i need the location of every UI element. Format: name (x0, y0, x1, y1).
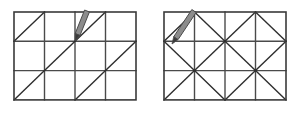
diagonal-line (106, 41, 137, 70)
left-figure (0, 0, 150, 116)
diagonal-line (256, 41, 287, 70)
pencil-icon (172, 10, 196, 44)
diagonal-line (75, 71, 106, 100)
pencil-body (75, 10, 89, 35)
pencil-icon (75, 10, 89, 41)
diagonal-line (195, 71, 226, 100)
right-figure (150, 0, 300, 116)
diagonal-line (225, 12, 256, 41)
diagonal-line (14, 71, 45, 100)
diagonal-line (14, 12, 45, 41)
diagonal-line (225, 41, 256, 70)
left-figure-svg (0, 0, 150, 116)
diagonal-line (225, 71, 256, 100)
diagram-canvas (0, 0, 300, 116)
diagonal-line (45, 41, 76, 70)
diagonal-line (256, 12, 287, 41)
diagonal-line (195, 12, 226, 41)
diagonal-line (164, 71, 195, 100)
diagonal-line (195, 41, 226, 70)
diagonal-line (164, 41, 195, 70)
diagonal-line (256, 71, 287, 100)
right-figure-svg (150, 0, 300, 116)
pencil-body (174, 10, 196, 40)
